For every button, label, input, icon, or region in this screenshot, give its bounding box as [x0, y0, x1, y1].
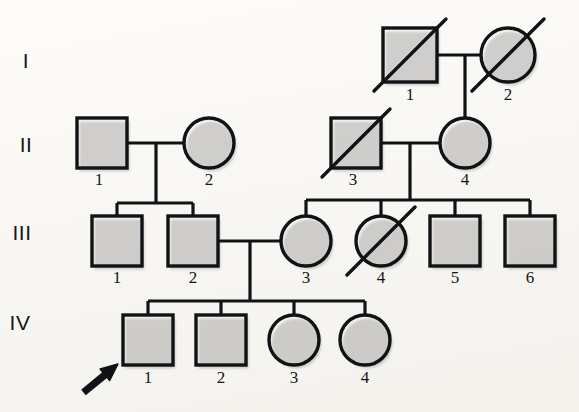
- pedigree-chart: 1212341234561234 IIIIIIIV: [0, 0, 579, 412]
- symbol-shadow: [80, 122, 130, 172]
- individual-id-label: 2: [205, 170, 214, 189]
- individual-id-label: 2: [189, 268, 198, 287]
- pedigree-canvas: 1212341234561234 IIIIIIIV: [0, 0, 579, 412]
- proband-arrow: [82, 364, 118, 394]
- symbol-shadow: [386, 32, 440, 86]
- symbol-shadow: [433, 220, 483, 270]
- individual-id-label: 3: [290, 368, 299, 387]
- individual-id-label: 5: [451, 268, 460, 287]
- symbol-shadow: [199, 319, 249, 369]
- symbol-shadow: [171, 220, 221, 270]
- individual-id-label: 4: [461, 170, 470, 189]
- individual-id-label: 6: [526, 268, 535, 287]
- proband-indicator: [82, 364, 118, 394]
- individual-id-label: 2: [217, 368, 226, 387]
- individual-id-label: 3: [302, 268, 311, 287]
- individual-id-label: 1: [406, 85, 415, 104]
- individual-id-label: 3: [349, 170, 358, 189]
- individual-id-label: 1: [113, 268, 122, 287]
- individual-id-label: 4: [361, 368, 370, 387]
- individual-id-label: 1: [144, 368, 153, 387]
- symbol-shadow: [95, 220, 145, 270]
- generation-labels: IIIIIIIV: [10, 49, 33, 334]
- individual-id-label: 2: [504, 85, 513, 104]
- generation-label-IV: IV: [10, 311, 31, 334]
- symbol-shadow: [508, 220, 558, 270]
- generation-label-III: III: [12, 221, 31, 244]
- symbol-shadow: [126, 319, 176, 369]
- individual-id-label: 4: [377, 268, 386, 287]
- generation-label-II: II: [20, 133, 33, 156]
- individual-id-label: 1: [95, 170, 104, 189]
- symbol-shadow: [334, 122, 384, 172]
- generation-label-I: I: [23, 49, 29, 72]
